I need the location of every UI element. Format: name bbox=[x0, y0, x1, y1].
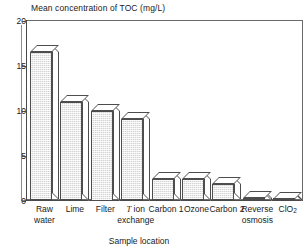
bar-front-face bbox=[273, 198, 295, 200]
bar bbox=[212, 184, 234, 200]
bar bbox=[121, 119, 143, 201]
bar-front-face bbox=[121, 119, 143, 201]
bar-side-face bbox=[82, 95, 89, 201]
chart-container: Mean concentration of TOC (mg/L) 2015105… bbox=[0, 0, 308, 250]
bar-front-face bbox=[182, 179, 204, 201]
bar-side-face bbox=[113, 104, 120, 201]
x-axis-tick-label: ClO2 bbox=[262, 204, 308, 217]
bar-front-face bbox=[152, 179, 174, 201]
bar-front-face bbox=[30, 52, 52, 200]
bar bbox=[273, 199, 295, 201]
bar bbox=[91, 111, 113, 201]
bar bbox=[30, 52, 52, 200]
bar bbox=[182, 179, 204, 201]
bar-front-face bbox=[212, 184, 234, 200]
bar-front-face bbox=[60, 102, 82, 201]
bar bbox=[60, 102, 82, 201]
bar-front-face bbox=[91, 111, 113, 201]
bar-front-face bbox=[243, 198, 265, 201]
bar-side-face bbox=[143, 112, 150, 201]
bar-side-face bbox=[52, 45, 59, 200]
bar bbox=[243, 198, 265, 201]
bar bbox=[152, 179, 174, 201]
x-axis-title: Sample location bbox=[0, 236, 308, 246]
